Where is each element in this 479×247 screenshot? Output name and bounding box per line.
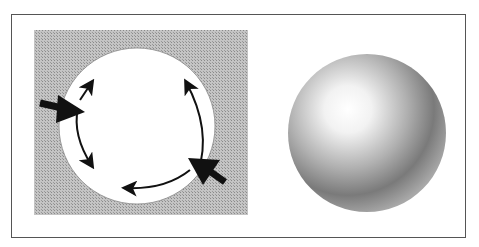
- right-panel: [288, 54, 446, 212]
- left-panel: [34, 30, 248, 215]
- shaded-sphere: [288, 54, 446, 212]
- diagram: [0, 0, 479, 247]
- white-circle: [59, 48, 215, 204]
